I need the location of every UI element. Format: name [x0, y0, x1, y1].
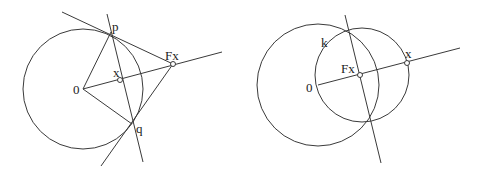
label-Fx: Fx — [165, 48, 179, 63]
tangent-line-q — [101, 64, 173, 166]
label-q: q — [136, 121, 143, 136]
left-figure: p Fx x 0 q — [23, 12, 222, 166]
label-Fx: Fx — [341, 61, 355, 76]
label-p: p — [112, 19, 119, 34]
ray-O-Fx — [83, 52, 222, 89]
polar-line — [107, 14, 143, 162]
label-x: x — [113, 65, 120, 80]
right-figure: k Fx x 0 — [257, 15, 460, 163]
segment-O-p — [83, 32, 111, 89]
point-x — [405, 61, 410, 66]
polar-line — [345, 15, 381, 163]
point-Fx — [358, 73, 363, 78]
segment-O-q — [83, 89, 132, 124]
diagram-canvas: p Fx x 0 q k Fx x 0 — [0, 0, 479, 177]
label-x: x — [405, 46, 412, 61]
label-O: 0 — [306, 80, 313, 95]
label-k: k — [321, 35, 328, 50]
ray-O-x — [318, 48, 460, 85]
label-O: 0 — [73, 82, 80, 97]
